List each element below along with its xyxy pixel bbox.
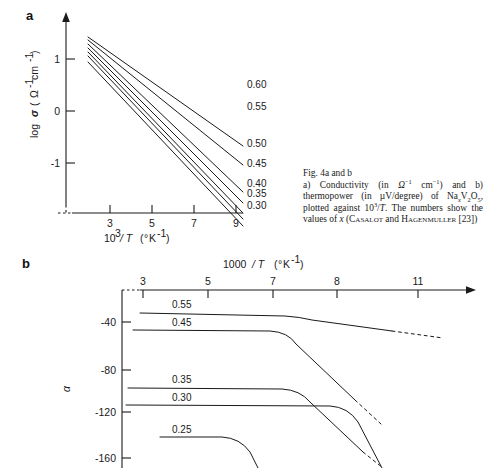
panel-b-curve-045-dashed — [355, 400, 381, 424]
svg-text:K: K — [283, 258, 290, 270]
panel-a-curvelabel-055: 0.55 — [247, 101, 267, 112]
panel-b-yticklabel-m160: -160 — [95, 452, 116, 464]
panel-b-curvelabel-045: 0.45 — [172, 317, 192, 328]
panel-a-yticklabel-0: 0 — [54, 105, 60, 117]
panel-b-curve-035 — [128, 388, 363, 452]
panel-b-x-axis-arrow — [466, 286, 476, 294]
panel-a-curve-045 — [88, 48, 243, 203]
svg-text:): ) — [300, 258, 304, 270]
panel-b-yticklabel-m80: -80 — [101, 364, 116, 376]
svg-text:(: ( — [28, 102, 40, 106]
svg-text:°: ° — [144, 232, 148, 244]
svg-text:σ: σ — [28, 109, 40, 117]
panel-b-curve-035-dashed — [363, 452, 383, 468]
panel-a-curvelabel-030: 0.30 — [247, 200, 267, 211]
caption-title: Fig. 4a and b — [303, 168, 483, 180]
svg-text:Ω: Ω — [28, 90, 40, 98]
svg-text:): ) — [28, 51, 40, 55]
svg-text:log: log — [28, 124, 40, 138]
panel-a-curve-030 — [88, 62, 243, 226]
panel-b-yticklabel-m40: -40 — [101, 316, 116, 328]
panel-a-curvelabel-035: 0.35 — [247, 188, 267, 199]
panel-b-x-axis-title: 1000 / T ( ° K -1 ) — [223, 253, 304, 270]
caption-body: a) Conductivity (in Ω−1 cm−1) and b) the… — [303, 180, 483, 225]
svg-text:/ T: / T — [119, 232, 134, 244]
panel-b-curvelabel-030: 0.30 — [172, 392, 192, 403]
panel-a-curve-060 — [88, 37, 243, 146]
panel-b-xticklabel-8: 8 — [334, 275, 340, 287]
panel-b-curvelabel-025: 0.25 — [172, 424, 192, 435]
panel-b-y-axis-title: α — [60, 385, 72, 392]
panel-b-yticklabel-m120: -120 — [95, 406, 116, 418]
panel-a-yticklabel-1: 1 — [54, 53, 60, 65]
svg-text:1000: 1000 — [223, 258, 247, 270]
panel-b-curvelabel-055: 0.55 — [172, 299, 192, 310]
panel-a-curvelabel-045: 0.45 — [247, 158, 267, 169]
panel-a-y-axis-arrow — [62, 12, 70, 22]
panel-a-xticklabel-3: 3 — [107, 217, 113, 229]
panel-b-curves — [126, 313, 443, 468]
panel-b-curve-055-dashed — [392, 331, 443, 338]
panel-a-xticklabel-7: 7 — [191, 217, 197, 229]
svg-text:/ T: / T — [251, 258, 266, 270]
figure-caption: Fig. 4a and b a) Conductivity (in Ω−1 cm… — [303, 168, 483, 226]
panel-b-xticklabel-3: 3 — [140, 275, 146, 287]
panel-a-curve-055 — [88, 40, 243, 165]
svg-text:cm: cm — [28, 66, 40, 80]
panel-a-curve-040 — [88, 52, 243, 213]
panel-a-x-axis-title: 10 3 / T ( ° K -1 ) — [104, 227, 170, 244]
panel-b-alpha-symbol: α — [60, 385, 72, 392]
svg-text:°: ° — [278, 258, 282, 270]
panel-a-curve-050 — [88, 44, 243, 192]
panel-b-letter: b — [22, 256, 30, 271]
figure-svg: a 1 0 -1 3 5 7 9 — [0, 0, 488, 468]
panel-a-curvelabel-050: 0.50 — [247, 138, 267, 149]
figure-container: a 1 0 -1 3 5 7 9 — [0, 0, 488, 468]
panel-b-curvelabel-035: 0.35 — [172, 374, 192, 385]
svg-text:): ) — [166, 232, 170, 244]
panel-a-yticklabel-m1: -1 — [51, 157, 60, 169]
panel-b-xticklabel-7: 7 — [270, 275, 276, 287]
svg-text:K: K — [149, 232, 156, 244]
panel-a-curve-035 — [88, 56, 243, 219]
panel-b-xticklabel-5: 5 — [205, 275, 211, 287]
panel-b-curve-025 — [160, 437, 258, 468]
panel-b-xticklabel-11: 11 — [413, 275, 424, 287]
panel-b-curve-045 — [133, 330, 355, 400]
panel-a: a 1 0 -1 3 5 7 9 — [23, 8, 267, 244]
panel-b: b 3 5 7 8 11 1000 / T ( ° K -1 — [22, 253, 476, 468]
panel-a-curvelabel-060: 0.60 — [247, 79, 267, 90]
panel-a-y-axis-title: log σ ( Ω -1 cm -1 ) — [23, 51, 40, 139]
panel-a-xticklabel-5: 5 — [149, 217, 155, 229]
panel-a-letter: a — [26, 8, 34, 23]
panel-a-curves — [88, 37, 243, 226]
